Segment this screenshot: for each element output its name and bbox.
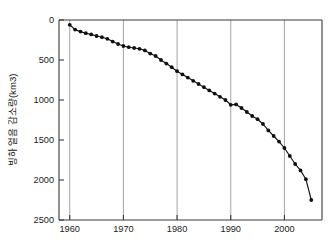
chart-background	[0, 0, 334, 250]
y-tick-label-2500: 2500	[34, 215, 54, 225]
data-point-1966	[100, 35, 104, 39]
data-point-1998	[272, 134, 276, 138]
data-point-1992	[240, 106, 244, 110]
data-point-1979	[170, 65, 174, 69]
chart-figure: 05001000150020002500 1960197019801990200…	[0, 0, 334, 250]
y-tick-label-1000: 1000	[34, 95, 54, 105]
data-point-1986	[207, 89, 211, 93]
data-point-1988	[218, 95, 222, 99]
y-tick-label-500: 500	[39, 55, 54, 65]
data-point-2002	[293, 162, 297, 166]
data-point-1987	[213, 92, 217, 96]
data-point-1984	[197, 82, 201, 86]
data-point-1961	[73, 28, 77, 32]
x-tick-label-1990: 1990	[221, 224, 241, 234]
data-point-1969	[116, 42, 120, 46]
data-point-1993	[245, 110, 249, 114]
data-point-1960	[68, 23, 72, 27]
data-point-2000	[283, 146, 287, 150]
data-point-2005	[309, 198, 313, 202]
data-point-1999	[277, 140, 281, 144]
x-tick-label-1970: 1970	[113, 224, 133, 234]
data-point-1983	[191, 79, 195, 83]
x-tick-label-1960: 1960	[60, 224, 80, 234]
data-point-1995	[256, 117, 260, 121]
y-axis-title: 빙하 얼음 감소량(km3)	[7, 74, 18, 167]
data-point-1970	[122, 44, 126, 48]
data-point-2004	[304, 177, 308, 181]
data-point-1974	[143, 49, 147, 53]
data-point-1978	[164, 62, 168, 66]
data-point-1976	[154, 54, 158, 58]
data-point-1972	[132, 46, 136, 50]
data-point-2003	[299, 169, 303, 173]
data-point-1991	[234, 103, 238, 107]
x-tick-label-1980: 1980	[167, 224, 187, 234]
data-point-1982	[186, 76, 190, 80]
data-point-1964	[89, 33, 93, 37]
y-tick-label-0: 0	[49, 15, 54, 25]
data-point-1973	[138, 47, 142, 51]
data-point-1996	[261, 122, 265, 126]
glacier-ice-loss-line-chart: 05001000150020002500 1960197019801990200…	[0, 0, 334, 250]
data-point-1967	[105, 37, 109, 41]
data-point-1962	[79, 30, 83, 34]
data-point-1990	[229, 103, 233, 107]
data-point-1997	[266, 129, 270, 133]
data-point-1968	[111, 40, 115, 44]
data-point-2001	[288, 154, 292, 158]
data-point-1975	[148, 52, 152, 56]
y-tick-label-1500: 1500	[34, 135, 54, 145]
data-point-1994	[250, 114, 254, 118]
y-tick-label-2000: 2000	[34, 175, 54, 185]
data-point-1981	[181, 73, 185, 77]
data-point-1985	[202, 85, 206, 89]
data-point-1977	[159, 58, 163, 62]
data-point-1971	[127, 45, 131, 49]
data-point-1980	[175, 69, 179, 73]
data-point-1989	[223, 98, 227, 102]
data-point-1965	[95, 34, 99, 38]
x-tick-label-2000: 2000	[274, 224, 294, 234]
data-point-1963	[84, 31, 88, 35]
